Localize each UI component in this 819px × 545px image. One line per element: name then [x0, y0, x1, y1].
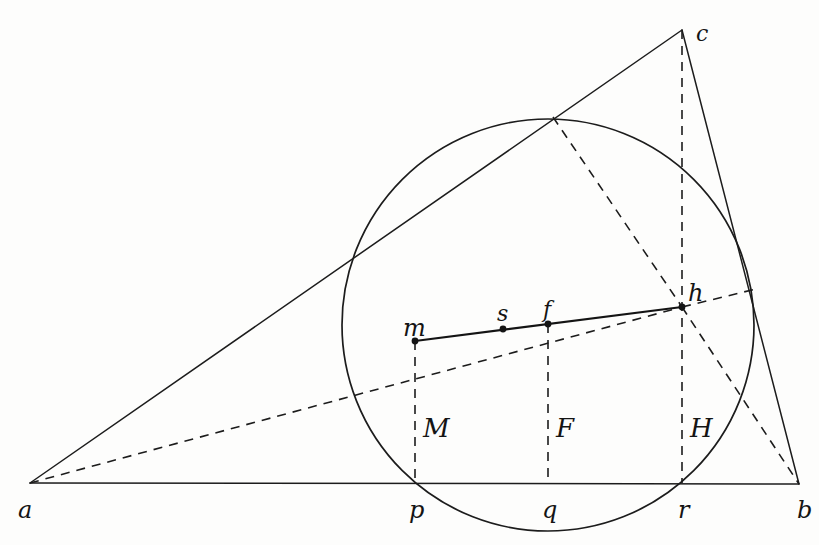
- solid-lines: [30, 30, 799, 484]
- figure-canvas: [0, 0, 819, 545]
- dashed-construction-lines: [30, 30, 799, 484]
- label-f: f: [543, 299, 551, 321]
- point-dot-h: [679, 304, 686, 311]
- dashed-line-h-to-b: [682, 307, 799, 484]
- label-p: p: [409, 498, 424, 522]
- label-b: b: [797, 498, 812, 522]
- label-F: F: [556, 415, 574, 441]
- dashed-line-a-to-h: [30, 307, 682, 483]
- label-H: H: [690, 415, 713, 441]
- label-m: m: [403, 316, 426, 340]
- label-h: h: [688, 281, 703, 305]
- label-a: a: [18, 498, 32, 522]
- label-s: s: [497, 303, 508, 325]
- solid-line-side-ac: [30, 30, 682, 483]
- label-q: q: [542, 498, 557, 522]
- label-c: c: [696, 23, 708, 45]
- solid-line-base-ab: [30, 483, 799, 484]
- geometry-figure: abcpqrmsfhMFH: [0, 0, 819, 545]
- dashed-line-circletop-to-h: [553, 117, 682, 307]
- label-M: M: [423, 415, 450, 441]
- point-dot-s: [500, 326, 507, 333]
- label-r: r: [678, 498, 689, 522]
